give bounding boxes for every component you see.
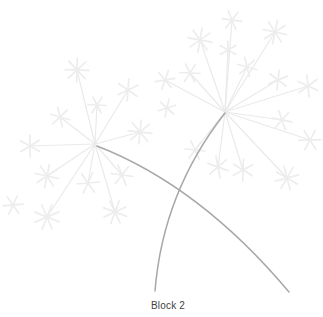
seed-star-ray [3,204,23,206]
seed-spoke [190,73,225,112]
seed-star-ray [180,73,200,74]
seed-star-ray [53,110,67,124]
seed-star-ray [160,102,173,114]
seed-star-ray [77,182,99,184]
seed-spoke [225,32,275,112]
left-stem [97,146,289,292]
left-dandelion-head [20,58,152,229]
dandelion-illustration [0,0,323,317]
seed-star-ray [41,166,54,186]
seed-spoke [95,144,115,212]
canvas: Block 2 [0,0,323,317]
seed-spoke [30,144,95,146]
seed-star-ray [65,70,89,71]
right-dandelion-head [155,11,321,190]
right-stem [155,113,225,291]
seed-star-ray [277,70,279,90]
seed-spoke [225,112,243,170]
loose-stars [3,99,176,214]
seed-star-ray [88,105,106,106]
seed-spoke [95,105,97,144]
seed-star-ray [240,60,254,74]
seed-star-ray [281,168,293,189]
seed-spoke [225,86,308,112]
block-caption: Block 2 [151,300,185,312]
seed-spoke [47,144,95,217]
